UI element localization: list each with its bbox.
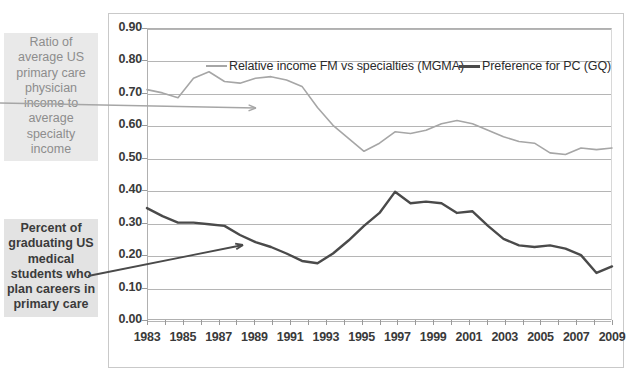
- x-axis-tick-label: 1985: [163, 330, 203, 344]
- x-axis-tick-label: 2009: [592, 330, 632, 344]
- x-axis-tick-mark: [344, 320, 345, 325]
- x-axis-tick-label: 1993: [306, 330, 346, 344]
- gridline: [148, 191, 611, 192]
- x-axis-tick-label: 1997: [377, 330, 417, 344]
- x-axis-tick-mark: [308, 320, 309, 325]
- x-axis-tick-mark: [505, 320, 506, 325]
- x-axis-tick-mark: [219, 320, 220, 325]
- y-axis-tick-label: 0.90: [110, 20, 142, 34]
- gridline: [148, 256, 611, 257]
- gridline: [148, 224, 611, 225]
- x-axis-tick-mark: [272, 320, 273, 325]
- x-axis-tick-mark: [201, 320, 202, 325]
- gridline: [148, 159, 611, 160]
- x-axis-tick-mark: [236, 320, 237, 325]
- y-axis-tick-label: 0.50: [110, 150, 142, 164]
- legend-label-preference-pc: Preference for PC (GQ): [482, 59, 611, 73]
- legend-label-relative-income: Relative income FM vs specialties (MGMA): [229, 59, 464, 73]
- x-axis-tick-mark: [487, 320, 488, 325]
- x-axis-tick-mark: [362, 320, 363, 325]
- x-axis-tick-mark: [594, 320, 595, 325]
- y-axis-tick-label: 0.60: [110, 117, 142, 131]
- x-axis-tick-mark: [576, 320, 577, 325]
- x-axis-tick-mark: [451, 320, 452, 325]
- x-axis-tick-label: 1983: [127, 330, 167, 344]
- chart-legend: Relative income FM vs specialties (MGMA)…: [206, 59, 606, 79]
- x-axis-tick-mark: [380, 320, 381, 325]
- y-axis-tick-label: 0.30: [110, 215, 142, 229]
- x-axis-tick-mark: [254, 320, 255, 325]
- x-axis-tick-label: 1989: [234, 330, 274, 344]
- y-axis-tick-label: 0.20: [110, 247, 142, 261]
- x-axis-tick-label: 1999: [413, 330, 453, 344]
- x-axis-tick-label: 2001: [449, 330, 489, 344]
- x-axis-tick-label: 1991: [270, 330, 310, 344]
- x-axis-tick-mark: [397, 320, 398, 325]
- x-axis-tick-label: 2007: [556, 330, 596, 344]
- x-axis-tick-mark: [612, 320, 613, 325]
- annotation-ratio-income: Ratio of average US primary care physici…: [4, 33, 98, 161]
- legend-entry-relative-income: Relative income FM vs specialties (MGMA): [206, 59, 464, 73]
- x-axis-tick-mark: [558, 320, 559, 325]
- gridline: [148, 94, 611, 95]
- x-axis-tick-mark: [165, 320, 166, 325]
- legend-swatch-dark-icon: [459, 65, 480, 68]
- x-axis-tick-mark: [326, 320, 327, 325]
- x-axis-tick-label: 2003: [485, 330, 525, 344]
- legend-entry-preference-pc: Preference for PC (GQ): [459, 59, 611, 73]
- x-axis-tick-mark: [290, 320, 291, 325]
- y-axis-tick-label: 0.00: [110, 312, 142, 326]
- x-axis-tick-mark: [523, 320, 524, 325]
- x-axis-tick-mark: [183, 320, 184, 325]
- y-axis-tick-label: 0.80: [110, 52, 142, 66]
- x-axis-tick-mark: [415, 320, 416, 325]
- y-axis-tick-label: 0.40: [110, 182, 142, 196]
- gridline: [148, 29, 611, 30]
- gridline: [148, 126, 611, 127]
- gridline: [148, 289, 611, 290]
- y-axis-tick-label: 0.10: [110, 280, 142, 294]
- x-axis-tick-label: 1995: [342, 330, 382, 344]
- x-axis-tick-mark: [540, 320, 541, 325]
- x-axis-tick-label: 1987: [199, 330, 239, 344]
- x-axis-tick-label: 2005: [520, 330, 560, 344]
- y-axis-tick-label: 0.70: [110, 85, 142, 99]
- x-axis-tick-mark: [147, 320, 148, 325]
- annotation-percent-students: Percent of graduating US medical student…: [4, 219, 98, 317]
- legend-swatch-light-icon: [206, 65, 227, 67]
- x-axis-tick-mark: [469, 320, 470, 325]
- x-axis-tick-mark: [433, 320, 434, 325]
- chart-root: 0.000.100.200.300.400.500.600.700.800.90…: [0, 0, 633, 386]
